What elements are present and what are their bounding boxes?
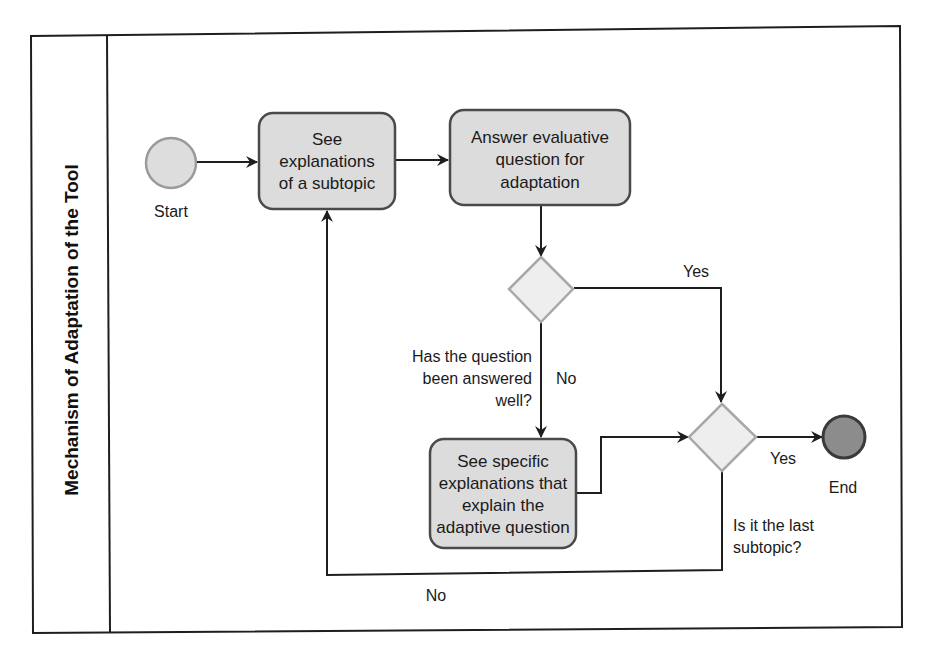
task-see-specific[interactable]: See specific explanations that explain t…: [430, 439, 576, 548]
gateway-last-subtopic[interactable]: [689, 404, 756, 471]
gateway2-question-line: Is it the last: [733, 517, 814, 534]
task-line: adaptation: [500, 173, 579, 192]
start-event[interactable]: [146, 138, 196, 188]
end-label: End: [829, 479, 857, 496]
lane-divider: [107, 35, 110, 632]
task-see-explanations[interactable]: See explanations of a subtopic: [259, 113, 395, 209]
flow-specific-to-gateway2: [577, 437, 688, 493]
task-line: Answer evaluative: [471, 128, 609, 147]
task-line: See specific: [457, 452, 549, 471]
task-line: question for: [496, 150, 585, 169]
gateway1-yes-label: Yes: [683, 263, 709, 280]
lane-title: Mechanism of Adaptation of the Tool: [61, 164, 82, 495]
task-line: adaptive question: [436, 518, 569, 537]
task-line: explanations that: [439, 474, 568, 493]
flow-gateway1-yes: [574, 288, 721, 402]
gateway1-question-line: Has the question: [412, 348, 532, 365]
bpmn-diagram: Mechanism of Adaptation of the Tool Star…: [0, 0, 928, 655]
gateway1-no-label: No: [556, 370, 577, 387]
gateway2-no-label: No: [426, 587, 447, 604]
task-answer-question[interactable]: Answer evaluative question for adaptatio…: [450, 110, 630, 205]
gateway2-yes-label: Yes: [770, 450, 796, 467]
gateway2-question-line: subtopic?: [733, 539, 802, 556]
task-line: explanations: [279, 152, 374, 171]
start-label: Start: [154, 203, 188, 220]
task-line: explain the: [462, 496, 544, 515]
gateway1-question-line: been answered: [423, 370, 532, 387]
gateway-answered-well[interactable]: [509, 257, 573, 322]
end-event[interactable]: [823, 416, 865, 458]
task-line: See: [312, 130, 342, 149]
gateway1-question-line: well?: [495, 392, 533, 409]
task-line: of a subtopic: [279, 174, 376, 193]
